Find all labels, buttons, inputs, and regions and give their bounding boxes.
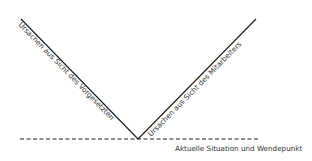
right-branch-label: Ursachen aus Sicht des Mitarbeiters bbox=[146, 39, 243, 138]
baseline-label: Aktuelle Situation und Wendepunkt bbox=[175, 144, 302, 153]
v-diagram: Ursachen aus Sicht des Vorgesetzten Ursa… bbox=[0, 0, 312, 161]
left-branch-label: Ursachen aus Sicht des Vorgesetzten bbox=[17, 20, 117, 122]
